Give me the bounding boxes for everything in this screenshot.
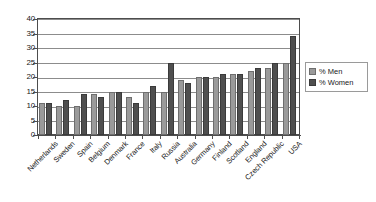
y-axis-tick-mark: [33, 48, 37, 49]
y-axis-tick-mark: [33, 19, 37, 20]
y-axis-tick-label: 10: [9, 102, 35, 110]
bar-men: [178, 80, 184, 135]
bar-men: [248, 71, 254, 135]
bar-men: [109, 92, 115, 136]
bar-women: [116, 92, 122, 136]
legend-swatch-men-icon: [309, 68, 316, 75]
x-axis-label: Australia: [52, 140, 199, 202]
x-axis-label: England: [121, 140, 268, 202]
bar-group: [38, 19, 55, 135]
x-axis-label: Sweden: [0, 140, 77, 202]
bar-women: [133, 103, 139, 135]
x-axis-tick-mark: [177, 135, 178, 139]
y-axis-tick-mark: [33, 77, 37, 78]
bar-women: [290, 36, 296, 135]
x-axis-tick-mark: [90, 135, 91, 139]
bar-group: [142, 19, 159, 135]
bar-women: [46, 103, 52, 135]
bar-men: [283, 63, 289, 136]
x-axis-label: Netherlands: [0, 140, 60, 202]
bar-group: [212, 19, 229, 135]
legend-swatch-women-icon: [309, 79, 316, 86]
y-axis-tick-label: 25: [9, 59, 35, 67]
y-axis-tick-label: 40: [9, 15, 35, 23]
x-axis-tick-mark: [108, 135, 109, 139]
x-axis-tick-mark: [142, 135, 143, 139]
bar-group: [125, 19, 142, 135]
chart-legend: % Men % Women: [305, 62, 368, 92]
x-axis-label: Denmark: [0, 140, 129, 202]
x-axis-tick-mark: [212, 135, 213, 139]
y-axis-tick-mark: [33, 121, 37, 122]
bars-layer: [38, 19, 299, 135]
bar-men: [56, 106, 62, 135]
bar-women: [185, 83, 191, 135]
bar-group: [195, 19, 212, 135]
x-axis-tick-mark: [195, 135, 196, 139]
y-axis-tick-mark: [33, 106, 37, 107]
y-axis-tick-label: 35: [9, 30, 35, 38]
bar-men: [39, 103, 45, 135]
bar-women: [150, 86, 156, 135]
y-axis-tick-label: 20: [9, 73, 35, 81]
bar-women: [168, 63, 174, 136]
x-axis-label: Russia: [34, 140, 181, 202]
y-axis-tick-mark: [33, 135, 37, 136]
y-axis-tick-label: 5: [9, 117, 35, 125]
x-axis-label: Italy: [17, 140, 164, 202]
y-axis-tick-mark: [33, 63, 37, 64]
x-axis-tick-mark: [264, 135, 265, 139]
x-axis-label: France: [0, 140, 147, 202]
bar-men: [91, 94, 97, 135]
bar-women: [63, 100, 69, 135]
bar-men: [161, 92, 167, 136]
bar-women: [237, 74, 243, 135]
x-axis-tick-mark: [229, 135, 230, 139]
x-axis-line: [37, 135, 301, 136]
x-axis-tick-mark: [299, 135, 300, 139]
bar-group: [177, 19, 194, 135]
x-axis-tick-mark: [282, 135, 283, 139]
bar-group: [247, 19, 264, 135]
bar-chart: 4035302520151050 NetherlandsSwedenSpainB…: [0, 0, 376, 202]
x-axis-label: Belgium: [0, 140, 112, 202]
legend-label-women: % Women: [319, 78, 353, 87]
bar-women: [98, 97, 104, 135]
bar-women: [203, 77, 209, 135]
bar-group: [55, 19, 72, 135]
x-axis-tick-mark: [55, 135, 56, 139]
y-axis-tick-label: 0: [9, 131, 35, 139]
x-axis-label: Germany: [69, 140, 216, 202]
bar-group: [229, 19, 246, 135]
bar-group: [73, 19, 90, 135]
bar-men: [230, 74, 236, 135]
bar-group: [90, 19, 107, 135]
y-axis-tick-mark: [33, 92, 37, 93]
bar-group: [108, 19, 125, 135]
x-axis-label: Scotland: [104, 140, 251, 202]
bar-men: [196, 77, 202, 135]
legend-label-men: % Men: [319, 67, 342, 76]
bar-men: [143, 92, 149, 136]
x-axis-label: Finland: [87, 140, 234, 202]
y-axis-tick-label: 30: [9, 44, 35, 52]
x-axis-tick-mark: [38, 135, 39, 139]
x-axis-label: USA: [156, 140, 303, 202]
legend-item-men: % Men: [309, 66, 364, 77]
bar-group: [264, 19, 281, 135]
legend-item-women: % Women: [309, 77, 364, 88]
bar-women: [272, 63, 278, 136]
bar-men: [74, 106, 80, 135]
bar-men: [213, 77, 219, 135]
x-axis-tick-mark: [160, 135, 161, 139]
bar-group: [282, 19, 299, 135]
y-axis-tick-label: 15: [9, 88, 35, 96]
bar-group: [160, 19, 177, 135]
x-axis-tick-mark: [125, 135, 126, 139]
x-axis-tick-mark: [73, 135, 74, 139]
y-axis-tick-mark: [33, 34, 37, 35]
x-axis-label: Czech Republic: [139, 140, 286, 202]
bar-women: [255, 68, 261, 135]
x-axis-tick-mark: [247, 135, 248, 139]
bar-women: [220, 74, 226, 135]
